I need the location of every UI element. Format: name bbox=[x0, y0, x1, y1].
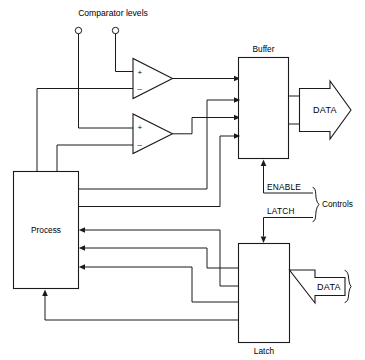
wire-level1-to-comp2-plus bbox=[79, 34, 134, 128]
controls-group: ENABLE LATCH Controls bbox=[261, 160, 353, 244]
controls-label: Controls bbox=[322, 199, 353, 209]
buffer-data-output: DATA bbox=[289, 81, 352, 139]
wire-latch-out-3 bbox=[85, 267, 239, 302]
buffer-label: Buffer bbox=[253, 44, 275, 54]
comparator-levels-label: Comparator levels bbox=[78, 8, 148, 18]
buffer-body[interactable] bbox=[239, 58, 289, 159]
latch-label: LATCH bbox=[267, 206, 295, 216]
arrowhead-enable-into-buffer bbox=[261, 160, 267, 167]
data-in-label: DATA bbox=[317, 282, 341, 292]
wire-latch bbox=[264, 218, 314, 237]
wire-process-out-2-to-buffer bbox=[79, 136, 235, 207]
enable-label: ENABLE bbox=[267, 182, 301, 192]
latch-feedback-group bbox=[42, 290, 238, 321]
arrowhead-process-in-3 bbox=[79, 264, 85, 270]
process-to-buffer-bus bbox=[79, 97, 241, 206]
wire-latch-out-1 bbox=[85, 230, 239, 286]
terminal-comparator-level-1[interactable] bbox=[75, 27, 81, 33]
data-in-brace bbox=[345, 271, 351, 303]
wire-latch-feedback bbox=[45, 296, 239, 320]
buffer-block[interactable]: Buffer bbox=[239, 44, 289, 159]
controls-brace bbox=[313, 188, 319, 222]
latch-block[interactable]: Latch bbox=[239, 244, 290, 357]
arrowhead-process-in-2 bbox=[79, 245, 85, 251]
process-comparator-feeds bbox=[37, 89, 57, 172]
wire-comp2-out-to-buffer bbox=[173, 118, 235, 134]
arrowhead-process-bottom-in bbox=[42, 290, 48, 297]
terminal-comparator-level-2[interactable] bbox=[112, 27, 118, 33]
comparator-1: + – bbox=[37, 59, 240, 99]
latch-body[interactable] bbox=[239, 244, 290, 343]
schematic-canvas: Comparator levels + – + – bbox=[0, 0, 365, 360]
data-out-label: DATA bbox=[313, 105, 337, 115]
comparator-2-minus-sign: – bbox=[138, 140, 143, 149]
comparator-1-minus-sign: – bbox=[138, 84, 143, 93]
arrowhead-latch-into-latch bbox=[261, 237, 267, 244]
latch-data-input: DATA bbox=[290, 270, 352, 303]
arrowhead-process-in-1 bbox=[79, 227, 85, 233]
wire-level2-to-comp1-plus bbox=[116, 34, 134, 72]
comparator-2: + – bbox=[57, 114, 240, 154]
comparator-2-plus-sign: + bbox=[138, 123, 143, 132]
circuit-diagram: Comparator levels + – + – bbox=[0, 0, 365, 360]
latch-to-process-bus bbox=[79, 227, 239, 302]
process-block[interactable]: Process bbox=[14, 172, 79, 289]
process-label: Process bbox=[31, 225, 61, 235]
latch-label-block: Latch bbox=[254, 346, 275, 356]
comparator-1-plus-sign: + bbox=[138, 68, 143, 77]
wire-latch-out-2 bbox=[85, 248, 239, 268]
